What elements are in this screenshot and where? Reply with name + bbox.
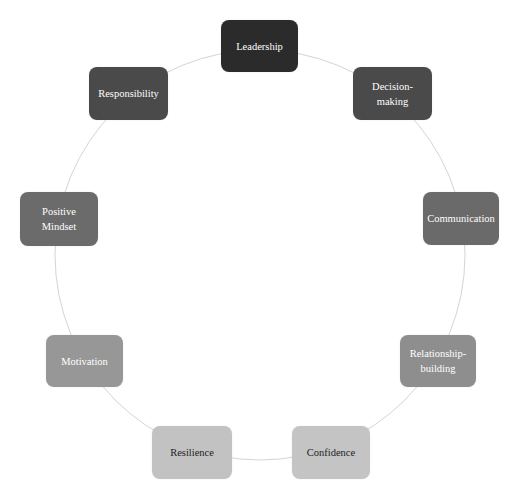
- node-confidence: Confidence: [292, 426, 370, 479]
- node-leadership: Leadership: [221, 20, 298, 72]
- node-decision-making: Decision- making: [353, 67, 432, 120]
- node-motivation: Motivation: [46, 335, 123, 387]
- node-resilience: Resilience: [152, 426, 232, 479]
- node-positive-mindset: Positive Mindset: [20, 192, 98, 246]
- node-relationship-building: Relationship- building: [400, 335, 476, 387]
- cycle-diagram: Leadership Decision- making Communicatio…: [0, 0, 518, 498]
- node-communication: Communication: [423, 192, 499, 245]
- node-responsibility: Responsibility: [89, 67, 168, 120]
- cycle-ring: [0, 0, 518, 498]
